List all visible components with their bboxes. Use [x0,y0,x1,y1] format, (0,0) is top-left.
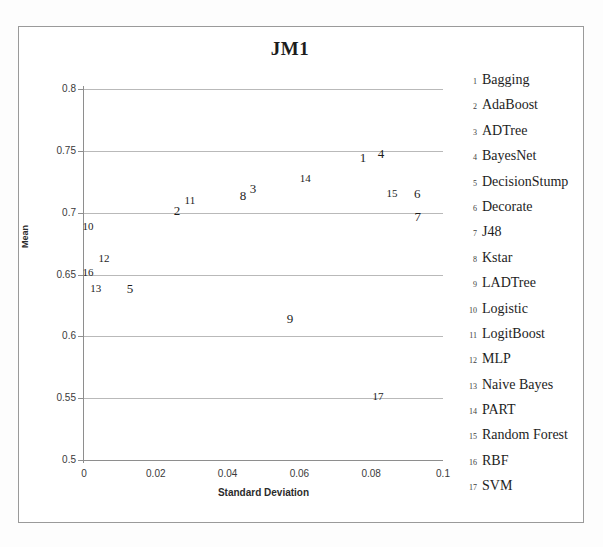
data-point-marker-2: 2 [174,204,181,217]
x-tick-label: 0.02 [136,469,176,479]
legend-key: 4 [462,153,482,162]
data-point-marker-14: 14 [300,172,311,185]
legend-key: 1 [462,77,482,86]
legend-label: LADTree [482,275,536,291]
y-tick-label: 0.55 [36,393,76,403]
legend-label: BayesNet [482,148,536,164]
data-point-marker-9: 9 [287,311,294,324]
data-point-marker-3: 3 [250,181,257,194]
y-tick-label: 0.65 [36,270,76,280]
x-tick-label: 0.1 [423,469,463,479]
chart-title: JM1 [150,38,430,60]
data-point-marker-16: 16 [82,266,93,279]
legend-label: PART [482,402,516,418]
legend-label: Bagging [482,72,529,88]
data-point-marker-1: 1 [360,151,367,164]
legend-key: 3 [462,128,482,137]
gridline-y [84,460,443,461]
gridline-y [84,336,443,337]
x-tick-label: 0.06 [279,469,319,479]
legend-label: Logistic [482,301,528,317]
legend-label: ADTree [482,123,527,139]
chart-figure: JM1 Mean 0.80.750.70.650.60.550.5 123456… [0,0,603,547]
legend-item: 7J48 [462,224,582,249]
data-point-marker-7: 7 [415,210,422,223]
data-point-marker-5: 5 [127,282,134,295]
legend: 1Bagging2AdaBoost3ADTree4BayesNet5Decisi… [462,72,582,504]
legend-item: 11LogitBoost [462,326,582,351]
data-point-marker-17: 17 [373,389,384,402]
x-tick-label: 0.04 [208,469,248,479]
x-tick-label: 0 [64,469,104,479]
legend-key: 14 [462,407,482,416]
legend-label: RBF [482,453,508,469]
y-axis-title: Mean [20,225,30,248]
legend-key: 5 [462,179,482,188]
legend-item: 12MLP [462,351,582,376]
data-point-marker-10: 10 [82,220,93,233]
legend-label: Kstar [482,250,512,266]
legend-label: DecisionStump [482,174,568,190]
legend-item: 4BayesNet [462,148,582,173]
y-tick-label: 0.6 [36,331,76,341]
legend-label: J48 [482,224,501,240]
legend-label: Decorate [482,199,533,215]
y-tick-label: 0.75 [36,146,76,156]
legend-item: 5DecisionStump [462,174,582,199]
data-point-marker-13: 13 [90,282,101,295]
gridline-y [84,151,443,152]
legend-key: 2 [462,102,482,111]
data-point-marker-15: 15 [387,186,398,199]
legend-label: AdaBoost [482,97,538,113]
legend-item: 1Bagging [462,72,582,97]
gridline-y [84,213,443,214]
legend-key: 8 [462,255,482,264]
legend-label: SVM [482,478,512,494]
x-axis-title: Standard Deviation [84,487,443,498]
legend-label: MLP [482,351,511,367]
data-point-marker-4: 4 [378,147,385,160]
gridline-y [84,398,443,399]
legend-item: 2AdaBoost [462,97,582,122]
legend-item: 16RBF [462,453,582,478]
legend-key: 7 [462,229,482,238]
y-tick-label: 0.5 [36,455,76,465]
plot-area: 1234567891011121314151617 [84,89,443,460]
gridline-y [84,89,443,90]
legend-item: 10Logistic [462,301,582,326]
legend-label: LogitBoost [482,326,545,342]
data-point-marker-6: 6 [414,186,421,199]
legend-key: 11 [462,331,482,340]
legend-key: 17 [462,483,482,492]
y-tick-label: 0.7 [36,208,76,218]
legend-item: 8Kstar [462,250,582,275]
legend-label: Naive Bayes [482,377,553,393]
data-point-marker-12: 12 [99,252,110,265]
legend-item: 6Decorate [462,199,582,224]
legend-item: 13Naive Bayes [462,377,582,402]
legend-key: 6 [462,204,482,213]
legend-key: 16 [462,458,482,467]
data-point-marker-11: 11 [185,194,196,207]
legend-item: 9LADTree [462,275,582,300]
legend-key: 9 [462,280,482,289]
x-tick-label: 0.08 [351,469,391,479]
legend-item: 15Random Forest [462,427,582,452]
legend-item: 3ADTree [462,123,582,148]
legend-key: 13 [462,382,482,391]
gridline-y [84,275,443,276]
legend-key: 12 [462,356,482,365]
y-tick-label: 0.8 [36,84,76,94]
legend-key: 10 [462,306,482,315]
legend-key: 15 [462,432,482,441]
data-point-marker-8: 8 [240,189,247,202]
legend-label: Random Forest [482,427,568,443]
legend-item: 14PART [462,402,582,427]
legend-item: 17SVM [462,478,582,503]
